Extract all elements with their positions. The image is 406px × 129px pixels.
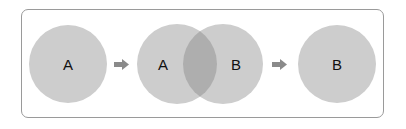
label-b-overlap: B [231, 56, 241, 73]
label-a-overlap: A [158, 56, 168, 73]
arrow-icon [272, 59, 287, 70]
arrow-icon [114, 59, 129, 70]
venn-transition-diagram: A A B B [0, 0, 406, 129]
label-b-final: B [332, 56, 342, 73]
label-a-initial: A [63, 56, 73, 73]
